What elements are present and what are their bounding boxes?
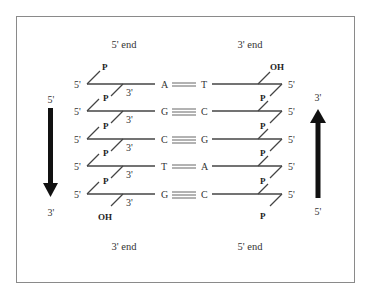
right-5prime-label: 5' xyxy=(288,134,295,145)
phosphate-label: P xyxy=(260,121,266,131)
3prime-label: 3' xyxy=(126,169,133,180)
dna-diagram: 5' end 3' end 3' end 5' end 5' 3' 3' 5' … xyxy=(0,0,370,300)
3prime-label: 3' xyxy=(126,142,133,153)
left-top-phosphate-bond xyxy=(87,71,100,84)
right-5prime-label: 5' xyxy=(288,79,295,90)
right-top-oh-bond xyxy=(258,72,270,84)
right-direction-arrow: 3' 5' xyxy=(310,92,326,217)
phosphate-label: P xyxy=(103,148,109,158)
right-5prime-label: 5' xyxy=(288,189,295,200)
right-base: G xyxy=(201,134,208,145)
left-arrow-start-label: 5' xyxy=(48,94,55,105)
right-bottom-phosphate-label: P xyxy=(260,211,266,221)
left-bottom-oh-label: OH xyxy=(98,212,112,222)
phosphate-label: P xyxy=(260,93,266,103)
left-base: G xyxy=(161,189,168,200)
right-links: P P P P P xyxy=(258,84,282,221)
left-bottom-end-label: 3' end xyxy=(112,241,138,252)
left-base: A xyxy=(161,79,169,90)
arrow-down-icon xyxy=(43,183,58,197)
left-arrow-end-label: 3' xyxy=(48,207,55,218)
left-top-phosphate-label: P xyxy=(102,62,108,72)
left-base: G xyxy=(161,106,168,117)
3prime-label: 3' xyxy=(126,197,133,208)
3prime-label: 3' xyxy=(126,114,133,125)
phosphate-label: P xyxy=(103,121,109,131)
left-base: T xyxy=(161,161,167,172)
left-base: C xyxy=(161,134,168,145)
right-base: A xyxy=(201,161,209,172)
right-base: T xyxy=(201,79,207,90)
left-5prime-label: 5' xyxy=(74,189,81,200)
3prime-label: 3' xyxy=(126,87,133,98)
right-base: C xyxy=(201,189,208,200)
right-5prime-label: 5' xyxy=(288,161,295,172)
left-5prime-label: 5' xyxy=(74,161,81,172)
left-direction-arrow: 5' 3' xyxy=(43,94,58,218)
phosphate-label: P xyxy=(260,148,266,158)
arrow-shaft xyxy=(48,108,53,188)
left-5prime-label: 5' xyxy=(74,106,81,117)
left-5prime-label: 5' xyxy=(74,79,81,90)
right-top-oh-label: OH xyxy=(270,62,284,72)
right-top-end-label: 3' end xyxy=(238,39,264,50)
right-bottom-end-label: 5' end xyxy=(238,241,264,252)
left-top-end-label: 5' end xyxy=(112,39,138,50)
phosphate-label: P xyxy=(103,176,109,186)
left-5prime-label: 5' xyxy=(74,134,81,145)
arrow-shaft xyxy=(316,120,321,198)
left-links: P 3' P 3' P 3' P 3' 3' OH xyxy=(87,84,133,222)
right-arrow-end-label: 3' xyxy=(315,92,322,103)
phosphate-label: P xyxy=(260,176,266,186)
right-5prime-label: 5' xyxy=(288,106,295,117)
right-arrow-start-label: 5' xyxy=(315,206,322,217)
phosphate-label: P xyxy=(103,93,109,103)
right-base: C xyxy=(201,106,208,117)
